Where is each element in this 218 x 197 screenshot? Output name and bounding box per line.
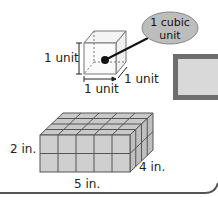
- callout-line2: unit: [146, 29, 194, 42]
- rectangular-prism: [40, 113, 153, 172]
- frame-border: [0, 183, 218, 193]
- callout-line1: 1 cubic: [146, 16, 194, 29]
- cube-height-label: 1 unit: [44, 52, 79, 64]
- prism-depth-label: 4 in.: [139, 161, 165, 173]
- prism-length-label: 5 in.: [74, 178, 100, 190]
- diagram-canvas: 1 cubic unit 1 unit 1 unit 1 unit 2 in. …: [0, 0, 218, 197]
- cube-width-label: 1 unit: [84, 83, 119, 95]
- cubic-unit-callout: 1 cubic unit: [146, 16, 194, 42]
- cube-depth-label: 1 unit: [124, 73, 159, 85]
- prism-height-label: 2 in.: [10, 143, 36, 155]
